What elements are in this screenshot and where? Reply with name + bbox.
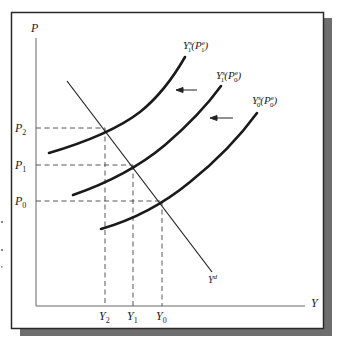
p-axis-label: P — [30, 21, 39, 35]
frame — [12, 13, 324, 329]
margin-fragments — [1, 221, 3, 268]
diagram-canvas: P Y P2 P1 P0 Y2 Y1 Y0 Yd Ys1(Pe1) Ys1(Pe… — [0, 0, 338, 340]
